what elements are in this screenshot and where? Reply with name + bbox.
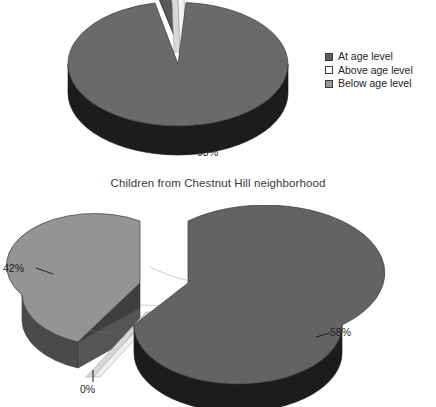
legend-label-below-age-level: Below age level (338, 77, 412, 91)
legend-label-at-age-level: At age level (338, 50, 393, 64)
pie-chart-bottom-graphic (0, 205, 436, 407)
legend-item-below-age-level: Below age level (325, 77, 413, 91)
value-label-42: 42% (3, 262, 24, 274)
figure-caption: Children from Chestnut Hill neighborhood (0, 177, 436, 189)
value-label-58: 58% (330, 326, 351, 338)
pie-chart-bottom: 42% 0% 58% At age level Above age level … (0, 205, 436, 407)
legend-swatch-above-age-level (325, 66, 333, 74)
value-label-0: 0% (80, 383, 95, 395)
legend-top: At age level Above age level Below age l… (325, 50, 413, 91)
pie-chart-top: 93% At age level Above age level Below a… (0, 0, 436, 172)
legend-item-at-age-level: At age level (325, 50, 413, 64)
legend-label-above-age-level: Above age level (338, 64, 413, 78)
legend-swatch-at-age-level (325, 53, 333, 61)
slice-at-age-level-bottom (134, 205, 385, 407)
legend-item-above-age-level: Above age level (325, 64, 413, 78)
legend-swatch-below-age-level (325, 80, 333, 88)
value-label-93: 93% (197, 146, 218, 158)
